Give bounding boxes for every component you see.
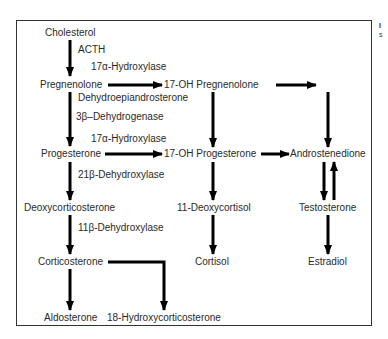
- enzyme-21b-dehydroxylase: 21β-Dehydroxylase: [78, 169, 164, 181]
- enzyme-11b-dehydroxylase: 11β-Dehydroxylase: [78, 222, 164, 234]
- compound-corticosterone: Corticosterone: [38, 256, 103, 268]
- enzyme-17a-hydroxylase-mid: 17α-Hydroxylase: [91, 133, 166, 145]
- compound-11-deoxycortisol: 11-Deoxycortisol: [177, 202, 251, 214]
- compound-cortisol: Cortisol: [195, 256, 229, 268]
- compound-aldosterone: Aldosterone: [44, 312, 97, 324]
- compound-deoxycorticosterone: Deoxycorticosterone: [24, 202, 115, 214]
- enzyme-3b-dehydrogenase: 3β–Dehydrogenase: [76, 111, 163, 123]
- compound-pregnenolone: Pregnenolone: [40, 79, 102, 91]
- compound-androstenedione: Androstenedione: [290, 148, 366, 160]
- side-text-2: s: [379, 31, 383, 38]
- arrow-corticosterone-18hydroxy: [108, 262, 164, 310]
- compound-progesterone: Progesterone: [41, 148, 101, 160]
- enzyme-acth: ACTH: [78, 44, 105, 56]
- compound-17oh-pregnenolone: 17-OH Pregnenolone: [164, 79, 259, 91]
- compound-cholesterol: Cholesterol: [45, 27, 96, 39]
- side-text-1: I: [379, 22, 381, 29]
- compound-18-hydroxycorticosterone: 18-Hydroxycorticosterone: [107, 312, 221, 324]
- enzyme-17a-hydroxylase-top: 17α-Hydroxylase: [91, 61, 166, 73]
- enzyme-dhea: Dehydroepiandrosterone: [78, 92, 188, 104]
- compound-17oh-progesterone: 17-OH Progesterone: [164, 148, 256, 160]
- pathway-arrows: [0, 0, 388, 339]
- compound-testosterone: Testosterone: [299, 202, 356, 214]
- compound-estradiol: Estradiol: [308, 256, 347, 268]
